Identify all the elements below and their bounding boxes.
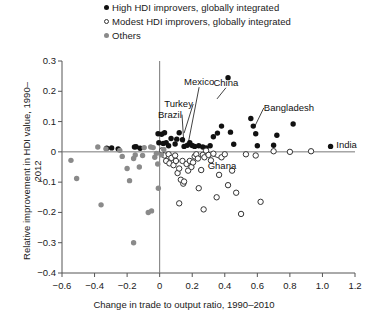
data-point [231,142,236,147]
data-point [225,182,230,187]
leader-line [255,108,264,126]
data-point [211,151,216,156]
data-point [243,152,248,157]
data-point [150,145,155,150]
annotation-turkey: Turkey [164,98,193,109]
x-tick-label: 0.6 [243,280,271,291]
data-point [98,202,103,207]
data-point [258,199,263,204]
data-point [271,142,276,147]
data-point [103,146,108,151]
data-point [168,136,173,141]
data-point [196,186,201,191]
data-point [172,141,177,146]
data-point [253,153,258,158]
annotation-mexico: Mexico [184,76,214,87]
legend-item-high-hdi: High HDI improvers, globally integrated [100,1,362,14]
data-point [219,123,224,128]
annotation-china: China [213,77,238,88]
y-axis-title: Relative improvement in HDI value, 1990–… [21,76,43,266]
annotation-ghana: Ghana [208,160,237,171]
data-point [290,121,295,126]
data-point [198,167,203,172]
data-point [140,153,145,158]
data-point [181,179,186,184]
data-point [133,152,138,157]
x-tick-label: −0.4 [81,280,109,291]
data-point [137,164,142,169]
data-point [274,133,279,138]
data-point [253,131,258,136]
data-point [149,208,154,213]
data-point [172,153,177,158]
data-point [195,156,200,161]
annotation-bangladesh: Bangladesh [264,102,314,113]
data-point [328,144,333,149]
data-point [74,176,79,181]
axes-layer [58,61,355,277]
data-point [201,207,206,212]
data-point [248,116,253,121]
data-point [166,143,171,148]
data-point [177,166,182,171]
x-tick-label: 0.2 [178,280,206,291]
data-point [271,149,276,154]
filled-circle-icon [100,5,112,10]
data-point [228,129,233,134]
x-tick-label: 0.8 [276,280,304,291]
data-point [211,134,216,139]
data-point [173,158,178,163]
data-point [177,130,182,135]
data-point [207,143,212,148]
data-point [222,152,227,157]
x-tick-label: −0.6 [48,280,76,291]
data-point [120,154,125,159]
data-point [162,130,167,135]
data-point [154,151,159,156]
legend-label-high-hdi: High HDI improvers, globally integrated [112,2,279,13]
data-point [127,178,132,183]
data-point [95,144,100,149]
x-tick-label: 0 [146,280,174,291]
data-point [117,148,122,153]
chart-legend: High HDI improvers, globally integrated … [100,1,362,43]
x-tick-label: 1.0 [308,280,336,291]
data-point [255,143,260,148]
data-point [238,211,243,216]
data-point [156,186,161,191]
data-point [131,240,136,245]
data-point [68,158,73,163]
legend-label-others: Others [112,30,141,41]
legend-item-modest-hdi: Modest HDI improvers, globally integrate… [100,15,362,28]
x-axis-title: Change in trade to output ratio, 1990–20… [0,299,368,310]
data-point [216,172,221,177]
data-point [174,136,179,141]
data-point [215,130,220,135]
data-point [180,137,185,142]
data-point [177,201,182,206]
x-tick-label: 1.2 [341,280,368,291]
data-point [287,149,292,154]
data-points-layer [68,75,333,245]
legend-label-modest-hdi: Modest HDI improvers, globally integrate… [112,16,291,27]
leader-line [217,88,226,99]
data-point [124,166,129,171]
y-tick-label: −0.4 [24,267,56,278]
data-point [109,145,114,150]
annotation-india: India [336,139,357,150]
data-point [155,161,160,166]
data-point [161,147,166,152]
open-circle-icon [100,19,112,24]
data-point [142,145,147,150]
annotation-brazil: Brazil [158,109,182,120]
data-point [251,123,256,128]
x-tick-label: 0.4 [211,280,239,291]
data-point [233,190,238,195]
gray-circle-icon [100,33,112,38]
data-point [308,149,313,154]
y-tick-label: 0.3 [24,55,56,66]
data-point [159,152,164,157]
x-tick-label: −0.2 [113,280,141,291]
data-point [190,160,195,165]
data-point [214,195,219,200]
